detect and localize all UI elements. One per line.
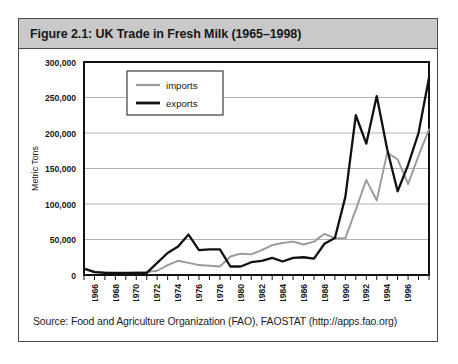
- y-axis-title-group: Metric Tons: [30, 145, 40, 190]
- x-tick-label: 1984: [278, 284, 288, 301]
- x-tick-label: 1994: [382, 284, 392, 301]
- x-tick-label: 1968: [111, 284, 121, 301]
- y-axis-tick-labels: 050,000100,000150,000200,000250,000300,0…: [45, 58, 76, 281]
- x-tick-label: 1982: [257, 284, 267, 301]
- x-tick-label: 1986: [299, 284, 309, 301]
- y-tick-label: 0: [71, 271, 76, 281]
- x-tick-label: 1972: [152, 284, 162, 301]
- x-tick-label: 1978: [215, 284, 225, 301]
- figure-body: 050,000100,000150,000200,000250,000300,0…: [19, 49, 437, 341]
- chart-legend: importsexports: [127, 71, 223, 115]
- legend-label-imports: imports: [166, 80, 198, 91]
- y-tick-label: 250,000: [45, 93, 76, 103]
- x-tick-label: 1992: [361, 284, 371, 301]
- line-chart: 050,000100,000150,000200,000250,000300,0…: [19, 49, 439, 301]
- x-tick-label: 1988: [320, 284, 330, 301]
- figure-source-note: Source: Food and Agriculture Organizatio…: [33, 315, 397, 327]
- y-tick-label: 50,000: [50, 235, 77, 245]
- figure-caption-bar: Figure 2.1: UK Trade in Fresh Milk (1965…: [19, 19, 437, 49]
- x-axis-tick-labels: 1966196819701972197419761978198019821984…: [90, 284, 414, 301]
- figure-caption-title: Figure 2.1: UK Trade in Fresh Milk (1965…: [19, 27, 301, 41]
- legend-label-exports: exports: [166, 98, 198, 109]
- x-tick-label: 1976: [194, 284, 204, 301]
- series-line-imports: [84, 129, 429, 272]
- y-tick-label: 100,000: [45, 200, 76, 210]
- y-tick-label: 300,000: [45, 58, 76, 68]
- y-axis-title: Metric Tons: [30, 145, 40, 190]
- x-tick-label: 1980: [236, 284, 246, 301]
- chart-plot-region: 050,000100,000150,000200,000250,000300,0…: [19, 49, 439, 301]
- y-tick-label: 200,000: [45, 129, 76, 139]
- series-imports: [84, 129, 429, 272]
- figure-container: Figure 2.1: UK Trade in Fresh Milk (1965…: [18, 18, 438, 342]
- x-tick-label: 1970: [131, 284, 141, 301]
- y-tick-label: 150,000: [45, 164, 76, 174]
- x-tick-label: 1996: [403, 284, 413, 301]
- x-tick-label: 1974: [173, 284, 183, 301]
- x-tick-label: 1966: [90, 284, 100, 301]
- x-tick-label: 1990: [341, 284, 351, 301]
